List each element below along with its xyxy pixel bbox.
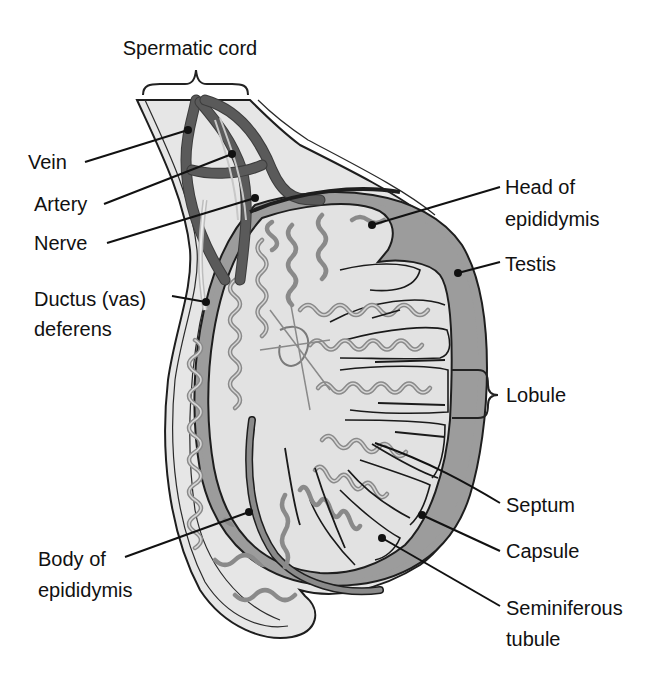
label-artery: Artery xyxy=(34,193,87,215)
label-body-line1: Body of xyxy=(38,548,106,570)
pointer-dot xyxy=(378,534,386,542)
pointer-dot xyxy=(184,126,192,134)
pointer-dot xyxy=(202,298,210,306)
label-seminiferous-line1: Seminiferous xyxy=(506,597,623,619)
pointer-dot xyxy=(418,511,426,519)
pointer-dot xyxy=(454,269,462,277)
label-lobule: Lobule xyxy=(506,384,566,406)
pointer-dot xyxy=(368,221,376,229)
label-septum: Septum xyxy=(506,494,575,516)
pointer-dot xyxy=(245,508,253,516)
label-head-line2: epididymis xyxy=(505,208,599,230)
label-seminiferous-line2: tubule xyxy=(506,628,561,650)
pointer-dot xyxy=(251,194,259,202)
label-ductus-line1: Ductus (vas) xyxy=(34,288,146,310)
label-spermatic-cord: Spermatic cord xyxy=(123,37,258,59)
testis-anatomy-diagram: Spermatic cord Vein Artery Nerve Ductus … xyxy=(0,0,668,677)
spermatic-cord-callout: Spermatic cord xyxy=(123,37,258,95)
label-head-line1: Head of xyxy=(505,176,575,198)
label-body-line2: epididymis xyxy=(38,579,132,601)
label-testis: Testis xyxy=(505,253,556,275)
pointer-dot xyxy=(228,150,236,158)
label-vein: Vein xyxy=(28,151,67,173)
label-ductus-line2: deferens xyxy=(34,318,112,340)
label-capsule: Capsule xyxy=(506,540,579,562)
label-nerve: Nerve xyxy=(34,232,87,254)
